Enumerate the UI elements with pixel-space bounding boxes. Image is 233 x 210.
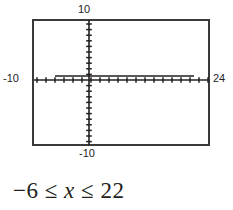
axis-label-left: -10 bbox=[3, 73, 19, 84]
caption-lower-bound: −6 bbox=[13, 178, 38, 203]
axis-label-bottom: -10 bbox=[79, 148, 95, 159]
caption-relation-right: ≤ bbox=[81, 178, 94, 203]
inequality-caption: −6 ≤ x ≤ 22 bbox=[13, 176, 223, 206]
caption-relation-left: ≤ bbox=[45, 178, 58, 203]
graph-figure: 10 -10 24 -10 −6 ≤ x ≤ 22 bbox=[0, 0, 233, 210]
caption-upper-bound: 22 bbox=[100, 178, 124, 203]
x-axis bbox=[34, 77, 208, 83]
caption-variable: x bbox=[64, 178, 75, 203]
plot-canvas bbox=[32, 19, 210, 146]
axis-label-top: 10 bbox=[78, 4, 90, 15]
axis-label-right: 24 bbox=[213, 73, 225, 84]
